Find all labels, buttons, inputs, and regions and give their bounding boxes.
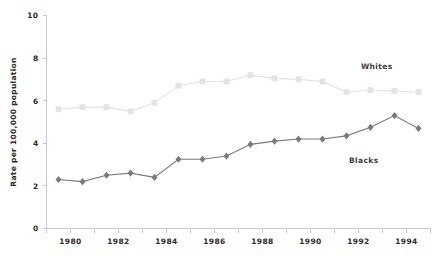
series-line [59,75,419,111]
x-tick-label: 1980 [59,237,81,246]
data-point-marker [104,104,110,110]
data-point-marker [344,132,350,139]
data-point-marker [392,88,398,94]
x-tick-label: 1986 [203,237,225,246]
x-tick-label: 1990 [299,237,321,246]
data-point-marker [152,100,158,106]
data-point-marker [416,89,422,95]
data-point-marker [344,89,350,95]
data-point-marker [176,156,182,163]
chart-container: 024681019801982198419861988199019921994R… [0,0,441,272]
y-tick-label: 0 [33,224,39,233]
y-tick-label: 4 [33,139,39,148]
data-point-marker [296,77,302,83]
x-tick-label: 1988 [251,237,273,246]
y-tick-label: 10 [27,11,38,20]
y-tick-label: 6 [33,97,39,106]
line-chart: 024681019801982198419861988199019921994R… [0,0,441,272]
data-point-marker [56,106,62,112]
data-point-marker [248,72,254,78]
data-point-marker [200,79,206,85]
series-line [59,116,419,182]
series-whites: Whites [56,62,422,114]
data-point-marker [248,141,254,148]
data-point-marker [296,135,302,142]
x-tick-label: 1994 [395,237,417,246]
data-point-marker [272,75,278,81]
data-point-marker [272,138,278,145]
data-point-marker [392,112,398,119]
data-point-marker [80,104,86,110]
data-point-marker [416,125,422,132]
data-point-marker [128,170,134,177]
data-point-marker [368,124,374,131]
data-point-marker [128,108,134,114]
x-tick-label: 1992 [347,237,369,246]
series-label-blacks: Blacks [349,156,379,165]
data-point-marker [80,178,86,185]
data-point-marker [152,174,158,181]
data-point-marker [368,87,374,93]
x-tick-label: 1982 [107,237,129,246]
data-point-marker [104,172,110,179]
y-tick-label: 2 [33,182,39,191]
data-point-marker [320,79,326,85]
x-tick-label: 1984 [155,237,177,246]
y-axis-title: Rate per 100,000 population [9,57,18,186]
data-point-marker [56,176,62,183]
y-tick-label: 8 [33,54,39,63]
series-label-whites: Whites [361,62,393,71]
data-point-marker [224,152,230,159]
data-point-marker [200,156,206,163]
data-point-marker [224,79,230,85]
series-blacks: Blacks [56,112,422,185]
data-point-marker [176,83,182,89]
data-point-marker [320,135,326,142]
